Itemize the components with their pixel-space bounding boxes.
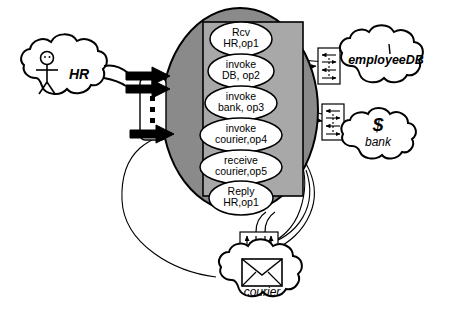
employeedb-port-group[interactable] xyxy=(318,48,340,84)
envelope-icon xyxy=(242,259,282,286)
hr-to-port-lines xyxy=(104,65,128,86)
activity-a6-line2: HR,op1 xyxy=(223,196,259,208)
hr-cloud-shape[interactable] xyxy=(21,34,107,94)
activity-a1-line2: HR,op1 xyxy=(223,37,259,49)
activity-a4-line2: courier,op4 xyxy=(215,133,267,145)
employeedb-label: employeeDB xyxy=(348,53,424,67)
courier-label: courier xyxy=(244,285,282,299)
activity-a3-line2: bank, op3 xyxy=(218,101,264,113)
dollar-icon: $ xyxy=(372,114,384,135)
hr-label: HR xyxy=(69,66,90,82)
diagram-svg: Rcv HR,op1 invoke DB, op2 invoke bank, o… xyxy=(0,0,451,317)
bank-label: bank xyxy=(365,135,392,149)
activity-a2-line2: DB, op2 xyxy=(222,69,260,81)
bank-port-group[interactable] xyxy=(322,104,344,140)
activity-a5-line2: courier,op5 xyxy=(215,165,267,177)
client-port-dots xyxy=(150,96,155,123)
hr-cloud-group[interactable] xyxy=(21,34,107,94)
diagram-canvas: Rcv HR,op1 invoke DB, op2 invoke bank, o… xyxy=(0,0,451,317)
